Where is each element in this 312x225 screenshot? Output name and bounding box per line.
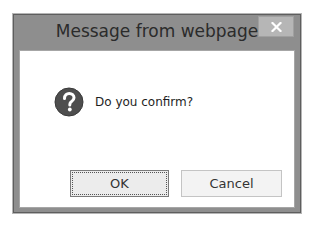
message-dialog: Message from webpage Do you confirm? OK: [13, 14, 301, 213]
cancel-button[interactable]: Cancel: [181, 170, 282, 197]
dialog-message: Do you confirm?: [95, 95, 193, 109]
dialog-body: Do you confirm? OK Cancel: [19, 50, 295, 208]
close-button[interactable]: [258, 16, 294, 37]
ok-button[interactable]: OK: [70, 170, 169, 197]
dialog-titlebar[interactable]: Message from webpage: [14, 15, 300, 50]
close-icon: [271, 22, 282, 32]
message-row: Do you confirm?: [54, 87, 193, 117]
question-icon: [54, 87, 84, 117]
